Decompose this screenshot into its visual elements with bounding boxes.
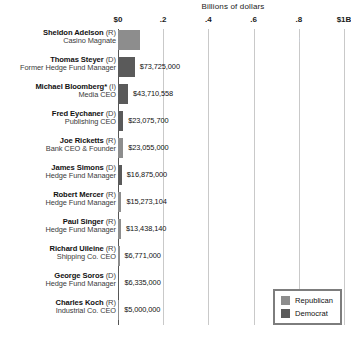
legend-item-dem: Democrat	[281, 309, 333, 318]
bar-row: Thomas Steyer (D)Former Hedge Fund Manag…	[0, 56, 348, 80]
bar-row-label: Richard Uileine (R)Shipping Co. CEO	[4, 245, 116, 261]
bar-row: James Simons (D)Hedge Fund Manager$16,87…	[0, 164, 348, 188]
person-role: Industrial Co. CEO	[4, 307, 116, 315]
bar-row-label: Paul Singer (R)Hedge Fund Manager	[4, 218, 116, 234]
bar	[118, 273, 119, 293]
bar-value-label: $23,055,000	[128, 143, 168, 152]
bar-row: Fred Eychaner (D)Publishing CEO$23,075,7…	[0, 110, 348, 134]
x-axis-tick: .6	[250, 15, 257, 24]
x-axis-tick: .2	[160, 15, 167, 24]
bar-row-label: Michael Bloomberg* (I)Media CEO	[4, 83, 116, 99]
bar-value-label: $13,438,140	[126, 224, 166, 233]
bar	[118, 30, 140, 50]
person-role: Hedge Fund Manager	[4, 280, 116, 288]
bar-value-label: $5,000,000	[124, 305, 160, 314]
bar-value-label: $98,320,861	[300, 35, 340, 44]
legend-label: Republican	[295, 296, 333, 305]
legend-swatch-icon	[281, 309, 290, 318]
bar-track: $6,771,000	[118, 246, 344, 266]
bar-value-label: $43,710,558	[133, 89, 173, 98]
bar	[118, 84, 128, 104]
bar	[118, 57, 135, 77]
bar-row-label: Fred Eychaner (D)Publishing CEO	[4, 110, 116, 126]
legend-item-rep: Republican	[281, 296, 333, 305]
person-role: Media CEO	[4, 91, 116, 99]
bar-row-label: Charles Koch (R)Industrial Co. CEO	[4, 299, 116, 315]
bar-track: $15,273,104	[118, 192, 344, 212]
chart-title: Billions of dollars	[118, 2, 348, 11]
x-axis-tick: .8	[295, 15, 302, 24]
x-axis-tick: $1B	[337, 15, 351, 24]
bar-row-label: Robert Mercer (R)Hedge Fund Manager	[4, 191, 116, 207]
bar-row: Sheldon Adelson (R)Casino Magnate$98,320…	[0, 29, 348, 53]
bar	[118, 165, 122, 185]
bar-row-label: Joe Ricketts (R)Bank CEO & Founder	[4, 137, 116, 153]
bar-row-label: James Simons (D)Hedge Fund Manager	[4, 164, 116, 180]
bar-row-label: Sheldon Adelson (R)Casino Magnate	[4, 29, 116, 45]
chart-legend: RepublicanDemocrat	[273, 289, 342, 325]
bar-track: $43,710,558	[118, 84, 344, 104]
bar	[118, 192, 121, 212]
bar	[118, 246, 120, 266]
bar-value-label: $15,273,104	[126, 197, 166, 206]
bar	[118, 111, 123, 131]
bar-track: $23,055,000	[118, 138, 344, 158]
bar-track: $13,438,140	[118, 219, 344, 239]
bar-value-label: $73,725,000	[140, 62, 180, 71]
bar-value-label: $6,335,000	[124, 278, 160, 287]
x-axis-tick: .4	[205, 15, 212, 24]
bar-track: $23,075,700	[118, 111, 344, 131]
bar-rows: Sheldon Adelson (R)Casino Magnate$98,320…	[0, 29, 348, 326]
legend-swatch-icon	[281, 296, 290, 305]
person-role: Bank CEO & Founder	[4, 145, 116, 153]
bar-value-label: $23,075,700	[128, 116, 168, 125]
x-axis-tick-labels: $0.2.4.6.8$1B	[118, 15, 344, 28]
bar-row: Joe Ricketts (R)Bank CEO & Founder$23,05…	[0, 137, 348, 161]
bar-row-label: Thomas Steyer (D)Former Hedge Fund Manag…	[4, 56, 116, 72]
bar	[118, 138, 123, 158]
bar-row: Michael Bloomberg* (I)Media CEO$43,710,5…	[0, 83, 348, 107]
bar-row: Paul Singer (R)Hedge Fund Manager$13,438…	[0, 218, 348, 242]
legend-label: Democrat	[295, 309, 328, 318]
bar-track: $98,320,861	[118, 30, 344, 50]
bar-track: $73,725,000	[118, 57, 344, 77]
person-role: Shipping Co. CEO	[4, 253, 116, 261]
person-role: Former Hedge Fund Manager	[4, 64, 116, 72]
bar-row: Robert Mercer (R)Hedge Fund Manager$15,2…	[0, 191, 348, 215]
bar	[118, 219, 121, 239]
bar-value-label: $16,875,000	[127, 170, 167, 179]
bar-row-label: George Soros (D)Hedge Fund Manager	[4, 272, 116, 288]
bar-value-label: $6,771,000	[125, 251, 161, 260]
bar-row: Richard Uileine (R)Shipping Co. CEO$6,77…	[0, 245, 348, 269]
person-role: Hedge Fund Manager	[4, 226, 116, 234]
person-role: Hedge Fund Manager	[4, 199, 116, 207]
x-axis-tick: $0	[114, 15, 123, 24]
person-role: Casino Magnate	[4, 37, 116, 45]
bar	[118, 300, 119, 320]
person-role: Publishing CEO	[4, 118, 116, 126]
person-role: Hedge Fund Manager	[4, 172, 116, 180]
bar-track: $16,875,000	[118, 165, 344, 185]
